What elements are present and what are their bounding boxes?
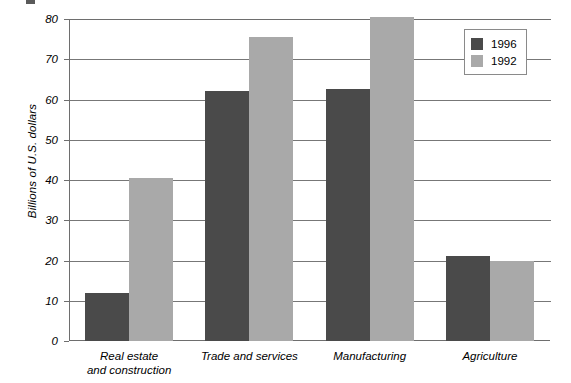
bar-1992-3[interactable] (370, 17, 414, 341)
y-tick-label: 20 (12, 255, 58, 267)
bar-1996-1[interactable] (85, 293, 129, 341)
gridline (70, 140, 551, 141)
y-axis-title: Billions of U.S. dollars (26, 61, 38, 261)
bar-1992-4[interactable] (490, 261, 534, 342)
y-tick-mark (64, 19, 69, 20)
y-tick-label: 0 (12, 335, 58, 347)
gridline (70, 19, 551, 20)
x-axis-label-line: Agriculture (410, 349, 570, 363)
bar-1996-3[interactable] (326, 89, 370, 341)
bar-1996-2[interactable] (205, 91, 249, 341)
y-tick-label: 80 (12, 13, 58, 25)
y-tick-label: 70 (12, 53, 58, 65)
x-axis-label: Agriculture (410, 349, 570, 363)
y-tick-mark (64, 180, 69, 181)
y-tick-label: 10 (12, 295, 58, 307)
bar-1992-2[interactable] (249, 37, 293, 341)
y-tick-label: 30 (12, 214, 58, 226)
legend-label-1996: 1996 (491, 38, 517, 50)
y-tick-label: 60 (12, 94, 58, 106)
y-tick-mark (64, 301, 69, 302)
y-tick-mark (64, 140, 69, 141)
chart-legend: 1996 1992 (464, 29, 527, 75)
y-tick-mark (64, 100, 69, 101)
y-tick-label: 40 (12, 174, 58, 186)
legend-item[interactable]: 1996 (471, 35, 517, 52)
bar-1996-4[interactable] (446, 256, 490, 341)
legend-swatch-1996 (471, 38, 483, 50)
y-tick-label: 50 (12, 134, 58, 146)
legend-swatch-1992 (471, 55, 483, 67)
legend-item[interactable]: 1992 (471, 52, 517, 69)
gridline (70, 100, 551, 101)
y-tick-mark (64, 220, 69, 221)
x-axis-label-line: and construction (49, 363, 209, 377)
page-artifact (26, 0, 35, 4)
y-tick-mark (64, 59, 69, 60)
legend-label-1992: 1992 (491, 55, 517, 67)
bar-1992-1[interactable] (129, 178, 173, 341)
y-tick-mark (64, 261, 69, 262)
bar-chart: Billions of U.S. dollars 010203040506070… (0, 0, 571, 383)
y-tick-mark (64, 341, 69, 342)
